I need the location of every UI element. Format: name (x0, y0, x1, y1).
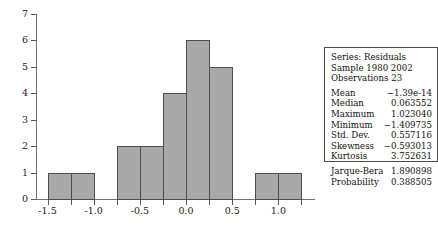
y-tick-label: 3 (2, 115, 28, 124)
stats-moments-block: Mean−1.39e-14Median0.063552Maximum1.0230… (331, 88, 432, 162)
y-tick-mark (31, 93, 37, 94)
stats-row-label: Probability (331, 177, 379, 188)
y-tick-mark (31, 67, 37, 68)
x-tick-mark (117, 200, 118, 205)
histogram-bar (140, 146, 164, 200)
histogram-bar (117, 146, 141, 200)
stats-row-value: 0.388505 (391, 177, 432, 188)
x-tick-label: 1.0 (258, 206, 298, 216)
stats-row-label: Kurtosis (331, 151, 367, 162)
x-tick-mark (71, 200, 72, 205)
stats-row-value: 3.752631 (391, 151, 432, 162)
statistics-summary-box: Series: ResidualsSample 1980 2002Observa… (324, 47, 438, 162)
x-tick-mark (255, 200, 256, 205)
y-tick-label: 5 (2, 62, 28, 71)
y-tick-label: 1 (2, 168, 28, 177)
stats-header-block: Series: ResidualsSample 1980 2002Observa… (331, 52, 432, 84)
stats-row-value: 0.557116 (391, 130, 432, 141)
stats-test-row: Jarque-Bera1.890898 (331, 166, 432, 177)
stats-row-value: 1.023040 (391, 109, 432, 120)
stats-moment-row: Skewness−0.593013 (331, 141, 432, 152)
y-tick-mark (31, 14, 37, 15)
stats-moment-row: Minimum−1.409735 (331, 120, 432, 131)
y-tick-mark (31, 173, 37, 174)
stats-header-line: Sample 1980 2002 (331, 63, 432, 74)
y-tick-mark (31, 199, 37, 200)
y-tick-mark (31, 40, 37, 41)
x-tick-label: -1.5 (28, 206, 68, 216)
stats-row-label: Maximum (331, 109, 374, 120)
stats-header-line: Observations 23 (331, 73, 432, 84)
stats-tests-block: Jarque-Bera1.890898Probability0.388505 (331, 166, 432, 187)
histogram-bar (209, 67, 233, 200)
x-tick-label: -0.5 (120, 206, 160, 216)
stats-header-line: Series: Residuals (331, 52, 432, 63)
stats-row-label: Minimum (331, 120, 373, 131)
stats-row-value: 1.890898 (391, 166, 432, 177)
histogram-bar (71, 173, 95, 200)
stats-row-value: 0.063552 (391, 98, 432, 109)
histogram-bar (163, 93, 187, 200)
x-tick-mark (301, 200, 302, 205)
stats-row-label: Mean (331, 88, 356, 99)
stats-row-label: Std. Dev. (331, 130, 370, 141)
y-tick-label: 2 (2, 141, 28, 150)
stats-row-label: Median (331, 98, 364, 109)
stats-moment-row: Maximum1.023040 (331, 109, 432, 120)
chart-plot-area: 01234567 -1.5-1.0-0.50.00.51.0 (0, 0, 320, 228)
y-tick-mark (31, 146, 37, 147)
histogram-bar (255, 173, 279, 200)
y-tick-label: 7 (2, 9, 28, 18)
stats-row-value: −1.409735 (384, 120, 432, 131)
x-tick-label: 0.5 (212, 206, 252, 216)
x-tick-label: 0.0 (166, 206, 206, 216)
stats-row-label: Jarque-Bera (331, 166, 383, 177)
stats-row-label: Skewness (331, 141, 374, 152)
histogram-bar (278, 173, 302, 200)
y-tick-mark (31, 120, 37, 121)
y-tick-label: 0 (2, 194, 28, 203)
stats-moment-row: Mean−1.39e-14 (331, 88, 432, 99)
stats-test-row: Probability0.388505 (331, 177, 432, 188)
stats-row-value: −1.39e-14 (387, 88, 432, 99)
stats-moment-row: Std. Dev.0.557116 (331, 130, 432, 141)
x-tick-mark (163, 200, 164, 205)
stats-row-value: −0.593013 (384, 141, 432, 152)
histogram-bar (186, 40, 210, 200)
x-tick-label: -1.0 (74, 206, 114, 216)
y-tick-label: 6 (2, 35, 28, 44)
stats-moment-row: Median0.063552 (331, 98, 432, 109)
stats-moment-row: Kurtosis3.752631 (331, 151, 432, 162)
x-tick-mark (209, 200, 210, 205)
histogram-bar (48, 173, 72, 200)
y-tick-label: 4 (2, 88, 28, 97)
